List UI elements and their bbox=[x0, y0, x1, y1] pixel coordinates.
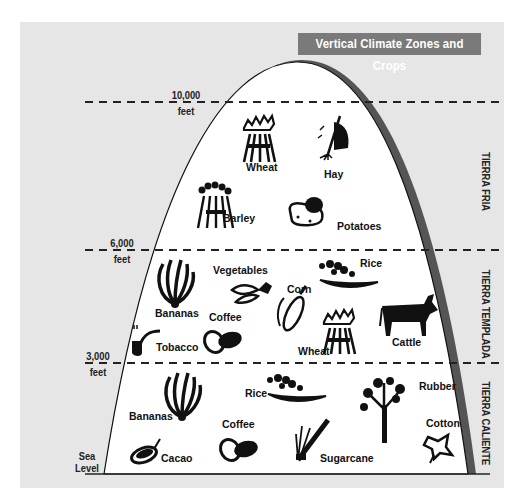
crop-label: Rubber bbox=[419, 380, 456, 392]
crop-label: Vegetables bbox=[213, 264, 268, 276]
crop-label: Cacao bbox=[161, 452, 193, 464]
crop-label: Rice bbox=[360, 257, 382, 269]
crop-label: Sugarcane bbox=[320, 452, 374, 464]
altitude-unit-6000: feet bbox=[103, 253, 140, 265]
crop-label: Hay bbox=[324, 168, 343, 180]
zone-label-tierra-fria: TIERRA FRIA bbox=[480, 152, 492, 211]
zone-label-tierra-caliente: TIERRA CALIENTE bbox=[480, 381, 492, 465]
crop-label: Cotton bbox=[426, 417, 460, 429]
diagram-title: Vertical Climate Zones and Crops bbox=[298, 33, 481, 55]
altitude-label-3000: 3,000 bbox=[79, 350, 116, 362]
altitude-label-6000: 6,000 bbox=[103, 237, 140, 249]
crop-label: Rice bbox=[245, 387, 267, 399]
crop-label: Potatoes bbox=[337, 220, 381, 232]
altitude-unit: feet bbox=[164, 105, 208, 117]
crop-label: Coffee bbox=[222, 418, 255, 430]
altitude-unit-10000: feet bbox=[164, 105, 208, 117]
altitude-value: 10,000 bbox=[164, 89, 208, 101]
altitude-label-sea: Sea Level bbox=[73, 450, 102, 474]
altitude-value: 6,000 bbox=[103, 237, 140, 249]
crop-label: Bananas bbox=[155, 307, 199, 319]
crop-label: Wheat bbox=[246, 161, 278, 173]
altitude-unit: feet bbox=[79, 366, 116, 378]
crop-label: Barley bbox=[223, 212, 255, 224]
crop-label: Wheat bbox=[298, 345, 330, 357]
altitude-label-10000: 10,000 bbox=[164, 89, 208, 101]
crop-label: Corn bbox=[287, 283, 312, 295]
zone-label-tierra-templada: TIERRA TEMPLADA bbox=[480, 270, 492, 359]
crop-label: Tobacco bbox=[156, 341, 198, 353]
altitude-value: 3,000 bbox=[79, 350, 116, 362]
altitude-unit-3000: feet bbox=[79, 366, 116, 378]
altitude-unit: Level bbox=[73, 462, 102, 474]
altitude-value: Sea bbox=[73, 450, 102, 462]
crop-label: Coffee bbox=[209, 311, 242, 323]
crop-label: Bananas bbox=[129, 410, 173, 422]
crop-label: Cattle bbox=[392, 336, 421, 348]
altitude-unit: feet bbox=[103, 253, 140, 265]
